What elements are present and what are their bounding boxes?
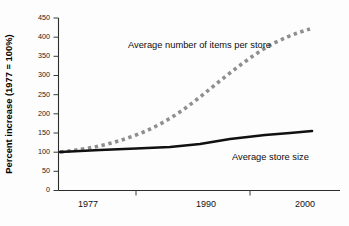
chart-figure: 450 400 350 300 250 200 150 100 50 0 Per…	[0, 0, 349, 226]
ytick-label-250: 250	[38, 90, 50, 99]
ytick-label-0: 0	[46, 185, 50, 194]
ytick-label-200: 200	[38, 109, 50, 118]
x-axis-group: 1977 1990 2000	[59, 191, 341, 210]
xtick-label-1977: 1977	[78, 199, 98, 209]
ytick-label-300: 300	[38, 70, 50, 79]
annotation-store-size: Average store size	[232, 152, 309, 162]
ytick-label-100: 100	[38, 147, 50, 156]
xtick-label-1990: 1990	[196, 199, 216, 209]
chart-canvas: 450 400 350 300 250 200 150 100 50 0 Per…	[0, 0, 349, 226]
ytick-label-400: 400	[38, 32, 50, 41]
ytick-label-350: 350	[38, 51, 50, 60]
ytick-label-50: 50	[42, 166, 50, 175]
xtick-label-2000: 2000	[295, 199, 315, 209]
y-axis-group: 450 400 350 300 250 200 150 100 50 0 Per…	[3, 13, 59, 195]
annotations-group: Average number of items per store Averag…	[128, 40, 309, 162]
series-store-size	[60, 131, 312, 152]
annotation-items-per-store: Average number of items per store	[128, 40, 271, 50]
y-axis-title: Percent increase (1977 = 100%)	[3, 34, 14, 173]
ytick-label-150: 150	[38, 128, 50, 137]
ytick-label-450: 450	[38, 13, 50, 22]
y-tick-marks	[54, 18, 59, 191]
x-tick-marks	[136, 191, 250, 196]
